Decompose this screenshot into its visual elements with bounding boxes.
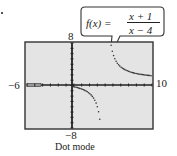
y-max-label: 8: [68, 31, 74, 42]
caption: Dot mode: [55, 141, 95, 152]
formula-numerator: x + 1: [129, 10, 152, 22]
formula-lhs: f(x) =: [86, 17, 111, 29]
callout-formula: f(x) = x + 1 x − 4: [86, 10, 162, 36]
formula-denominator: x − 4: [129, 24, 152, 36]
y-min-label: −8: [65, 130, 77, 141]
x-min-label: −6: [8, 80, 20, 91]
x-max-label: 10: [156, 78, 167, 89]
fraction-bar: [127, 22, 160, 23]
